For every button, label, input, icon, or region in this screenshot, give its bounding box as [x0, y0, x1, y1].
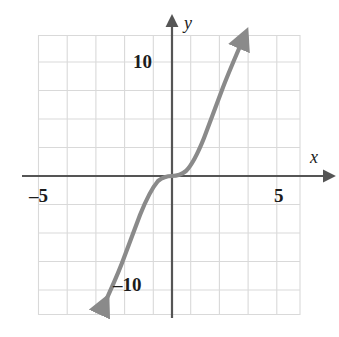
x-axis-name: x — [310, 148, 318, 166]
y-axis-name: y — [184, 14, 192, 32]
x-axis-tick-label-positive: 5 — [274, 186, 284, 205]
cubic-function-graph: 10 –10 –5 5 x y — [0, 0, 339, 337]
x-axis-tick-label-negative: –5 — [29, 186, 48, 205]
y-axis-tick-label-positive: 10 — [133, 52, 152, 71]
graph-canvas — [0, 0, 339, 337]
y-axis-tick-label-negative: –10 — [113, 275, 142, 294]
